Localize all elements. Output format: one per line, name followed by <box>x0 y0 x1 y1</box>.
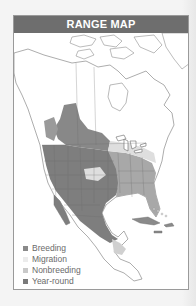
legend-item-nonbreeding: Nonbreeding <box>23 265 81 276</box>
legend-item-breeding: Breeding <box>23 243 81 254</box>
legend-item-year-round: Year-round <box>23 276 81 287</box>
nonbreeding-swatch <box>23 268 28 273</box>
legend-label: Breeding <box>32 243 66 254</box>
year-round-swatch <box>23 279 28 284</box>
legend-item-migration: Migration <box>23 254 81 265</box>
range-map-title: RANGE MAP <box>14 16 188 33</box>
legend-label: Year-round <box>32 276 74 287</box>
legend-label: Migration <box>32 254 67 265</box>
migration-swatch <box>23 257 28 262</box>
range-map-panel: RANGE MAP <box>13 15 189 290</box>
map-legend: Breeding Migration Nonbreeding Year-roun… <box>23 243 81 287</box>
legend-label: Nonbreeding <box>32 265 81 276</box>
breeding-swatch <box>23 246 28 251</box>
